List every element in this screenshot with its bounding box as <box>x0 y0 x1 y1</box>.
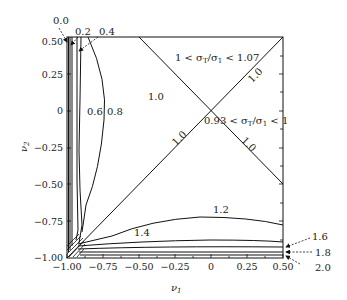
label-0.2: 0.2 <box>75 26 91 37</box>
label-1.0-upper-left: 1.0 <box>148 91 164 102</box>
x-tick: −0.25 <box>160 261 189 272</box>
contour-1.4 <box>78 240 283 246</box>
x-tick: 0.50 <box>272 261 293 272</box>
contour-0.6 <box>79 37 82 243</box>
y-tick-labels: 0.50 0.25 0 −0.25 −0.50 −0.75 −1.00 <box>34 36 63 263</box>
x-tick: −0.50 <box>124 261 153 272</box>
y-tick: 0.25 <box>42 69 63 80</box>
label-1.6: 1.6 <box>312 231 328 242</box>
y-tick: 0 <box>57 105 63 116</box>
x-tick: 0 <box>208 261 214 272</box>
contour-1.2 <box>78 217 283 244</box>
y-tick: −0.75 <box>34 216 63 227</box>
y-tick: −0.25 <box>34 142 63 153</box>
x-tick: −0.75 <box>88 261 117 272</box>
x-axis-label: ν1 <box>171 282 182 295</box>
y-tick: −1.00 <box>34 252 63 263</box>
region-annotation-top: 1 < σT/σ1 < 1.07 <box>175 52 259 65</box>
label-1.4: 1.4 <box>134 227 150 238</box>
y-tick: 0.50 <box>42 36 63 47</box>
label-1.0-upper-right: 1.0 <box>246 66 265 85</box>
contour-0.4 <box>76 37 78 240</box>
label-1.0-lower-right: 1.0 <box>239 135 258 154</box>
plot-area: 1.0 1.0 1.0 1.0 0.6 0.8 1.2 1.4 1 < σT/σ… <box>67 37 288 258</box>
inline-contour-labels: 1.0 1.0 1.0 1.0 0.6 0.8 1.2 1.4 <box>87 66 265 238</box>
label-0.8: 0.8 <box>107 106 123 117</box>
label-0.0: 0.0 <box>53 15 69 26</box>
arrow-1.6 <box>286 238 310 247</box>
y-axis-label: ν2 <box>18 141 31 152</box>
label-1.0-lower-left: 1.0 <box>170 129 189 148</box>
contour-0.8 <box>82 37 105 232</box>
label-1.2: 1.2 <box>213 204 229 215</box>
x-tick-labels: −1.00 −0.75 −0.50 −0.25 0 0.25 0.50 <box>52 261 293 272</box>
x-tick: 0.25 <box>236 261 257 272</box>
y-tick: −0.50 <box>34 179 63 190</box>
contour-1.6 <box>78 247 283 249</box>
label-2.0: 2.0 <box>315 262 331 273</box>
label-1.8: 1.8 <box>315 247 331 258</box>
label-0.4: 0.4 <box>99 26 115 37</box>
region-annotation-bottom: 0.93 < σT/σ1 < 1 <box>204 115 288 128</box>
contour-chart: 1.0 1.0 1.0 1.0 0.6 0.8 1.2 1.4 1 < σT/σ… <box>0 0 347 300</box>
label-0.6: 0.6 <box>87 106 103 117</box>
